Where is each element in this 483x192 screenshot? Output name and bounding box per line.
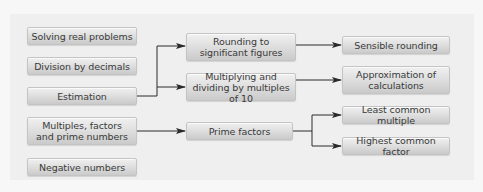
node-sensible-rounding: Sensible rounding bbox=[342, 36, 450, 54]
node-label: Least common multiple bbox=[343, 104, 449, 126]
node-division-by-decimals: Division by decimals bbox=[27, 57, 137, 75]
node-label: Negative numbers bbox=[39, 162, 125, 173]
node-approximation: Approximation of calculations bbox=[342, 66, 450, 94]
node-label: Rounding to significant figures bbox=[193, 36, 289, 58]
node-label: Estimation bbox=[57, 91, 107, 102]
node-highest-common-factor: Highest common factor bbox=[342, 137, 450, 155]
node-negative-numbers: Negative numbers bbox=[27, 158, 137, 176]
node-prime-factors: Prime factors bbox=[186, 122, 293, 140]
node-estimation: Estimation bbox=[27, 87, 137, 105]
node-rounding-sig-figs: Rounding to significant figures bbox=[186, 33, 296, 61]
node-label: Multiples, factors and prime numbers bbox=[36, 120, 128, 142]
node-label: Solving real problems bbox=[32, 31, 133, 42]
node-label: Division by decimals bbox=[34, 61, 130, 72]
node-label: Sensible rounding bbox=[354, 40, 438, 51]
node-label: Highest common factor bbox=[343, 135, 449, 157]
node-label: Approximation of calculations bbox=[353, 69, 439, 91]
node-least-common-multiple: Least common multiple bbox=[342, 106, 450, 124]
node-multiples-factors-primes: Multiples, factors and prime numbers bbox=[27, 117, 137, 145]
node-multiplying-dividing: Multiplying and dividing by multiples of… bbox=[186, 73, 296, 101]
node-solving-real-problems: Solving real problems bbox=[27, 27, 137, 45]
node-label: Prime factors bbox=[209, 126, 271, 137]
node-label: Multiplying and dividing by multiples of… bbox=[189, 71, 293, 104]
